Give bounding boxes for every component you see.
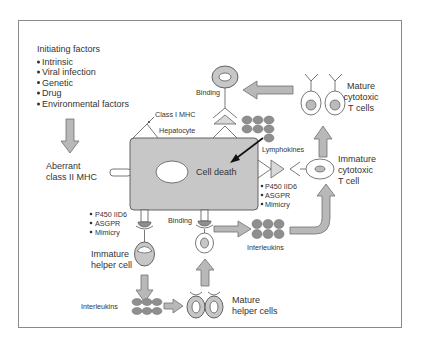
class2-mhc-receptor [110, 169, 131, 176]
immature-cytotoxic-line3: T cell [338, 176, 359, 186]
hepatocyte-cell [130, 138, 258, 210]
aberrant-label-line2: class II MHC [46, 172, 98, 182]
class1-mhc-label: Class I MHC [155, 110, 195, 119]
left-stalk [141, 210, 148, 222]
helper-binding-label: Binding [168, 216, 192, 225]
immature-cytotoxic-line1: Immature [338, 154, 376, 164]
bullet-icon [37, 92, 40, 95]
factor-viral-infection: Viral infection [42, 67, 96, 77]
mature-cytotoxic-line3: T cells [348, 103, 374, 113]
bullet-icon [37, 81, 40, 84]
bullet-icon [37, 61, 40, 64]
hepatocyte-nucleus [156, 161, 188, 183]
initiating-factors-title: Initiating factors [37, 44, 101, 54]
antigen-mimicry: Mimicry [265, 200, 290, 209]
factor-drug: Drug [42, 88, 62, 98]
factor-genetic: Genetic [42, 78, 74, 88]
interleukins-middle-label: Interleukins [247, 243, 284, 252]
factor-intrinsic: Intrinsic [42, 57, 74, 67]
interleukins-left-label: Interleukins [81, 302, 118, 311]
lymphokines-label: Lymphokines [262, 145, 304, 154]
mature-helper-line1: Mature [232, 295, 260, 305]
immature-helper-cell [135, 242, 155, 266]
antigen-p450: P450 IID6 [95, 210, 127, 219]
mature-cytotoxic-line2: cytotoxic [343, 92, 379, 102]
bullet-icon [37, 103, 40, 106]
antigen-asgpr: ASGPR [265, 191, 290, 200]
antigen-mimicry: Mimicry [95, 228, 120, 237]
immature-helper-line2: helper cell [91, 260, 132, 270]
bullet-icon [37, 71, 40, 74]
immature-helper-line1: Immature [91, 249, 129, 259]
mature-helper-line2: helper cells [232, 306, 278, 316]
hepatocyte-label: Hepatocyte [159, 126, 195, 135]
factor-environmental: Environmental factors [42, 99, 130, 109]
cell-death-label: Cell death [196, 167, 237, 177]
aberrant-label-line1: Aberrant [46, 161, 81, 171]
antigen-p450: P450 IID6 [265, 182, 297, 191]
antigen-asgpr: ASGPR [95, 219, 120, 228]
immature-cytotoxic-line2: cytotoxic [338, 165, 374, 175]
mature-cytotoxic-line1: Mature [347, 81, 375, 91]
autoimmune-hepatitis-diagram: .cell { fill:#c7c7c7; stroke:#555; strok… [0, 0, 423, 349]
top-binding-label: Binding [196, 88, 220, 97]
